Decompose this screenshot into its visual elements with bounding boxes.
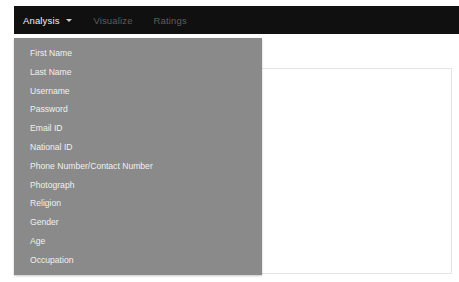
nav-item-analysis-label: Analysis bbox=[23, 15, 60, 26]
nav-item-ratings-label: Ratings bbox=[154, 15, 187, 26]
menu-item-gender[interactable]: Gender bbox=[14, 213, 262, 232]
menu-item-national-id[interactable]: National ID bbox=[14, 138, 262, 157]
nav-item-analysis[interactable]: Analysis bbox=[23, 11, 81, 30]
menu-item-password[interactable]: Password bbox=[14, 100, 262, 119]
analysis-dropdown-list: First Name Last Name Username Password E… bbox=[14, 38, 262, 275]
menu-item-religion[interactable]: Religion bbox=[14, 194, 262, 213]
menu-item-age[interactable]: Age bbox=[14, 232, 262, 251]
menu-item-phone-number[interactable]: Phone Number/Contact Number bbox=[14, 157, 262, 176]
menu-item-income-range[interactable]: Income Range bbox=[14, 269, 262, 275]
nav-item-visualize-label: Visualize bbox=[93, 15, 132, 26]
app-root: Analysis Visualize Ratings ies 7.69% Not… bbox=[0, 0, 459, 282]
menu-item-last-name[interactable]: Last Name bbox=[14, 63, 262, 82]
top-navbar: Analysis Visualize Ratings bbox=[14, 6, 459, 34]
analysis-dropdown-menu: First Name Last Name Username Password E… bbox=[14, 38, 262, 275]
menu-item-username[interactable]: Username bbox=[14, 82, 262, 101]
nav-item-visualize[interactable]: Visualize bbox=[93, 11, 141, 30]
menu-item-first-name[interactable]: First Name bbox=[14, 44, 262, 63]
menu-item-photograph[interactable]: Photograph bbox=[14, 175, 262, 194]
menu-item-occupation[interactable]: Occupation bbox=[14, 251, 262, 270]
menu-item-email-id[interactable]: Email ID bbox=[14, 119, 262, 138]
nav-item-ratings[interactable]: Ratings bbox=[154, 11, 196, 30]
chevron-down-icon bbox=[66, 19, 72, 22]
